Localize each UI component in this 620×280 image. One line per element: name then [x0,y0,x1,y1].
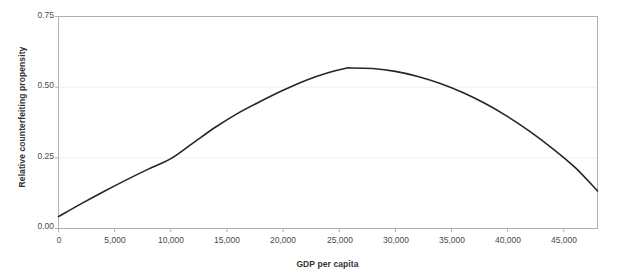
chart-figure: Relative counterfeiting propensity GDP p… [0,0,620,280]
y-tick-marks [55,17,59,229]
data-series-line [59,68,598,217]
x-tick-marks [59,229,564,233]
plot-area [0,0,620,280]
